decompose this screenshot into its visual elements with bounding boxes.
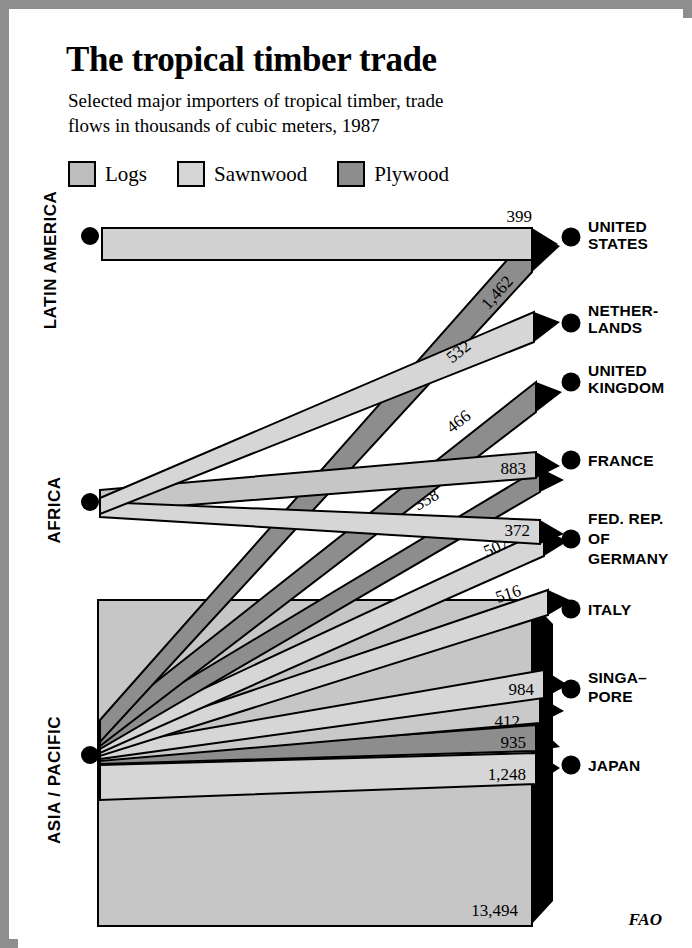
dest-label-singapore: SINGA– PORE — [588, 669, 647, 705]
source-node-asia-pacific[interactable] — [81, 746, 99, 764]
dest-node-italy[interactable] — [562, 600, 581, 619]
svg-text:ITALY: ITALY — [588, 601, 632, 618]
chart-inner-panel: The tropical timber trade Selected major… — [18, 18, 692, 948]
dest-label-netherlands: NETHER- LANDS — [588, 302, 658, 336]
svg-text:LATIN AMERICA: LATIN AMERICA — [41, 191, 60, 330]
flow-label-883: 883 — [501, 459, 527, 478]
svg-text:PORE: PORE — [588, 688, 633, 705]
dest-label-united-states: UNITED STATES — [588, 218, 648, 252]
flow-label-935: 935 — [501, 733, 527, 752]
dest-node-germany[interactable] — [562, 530, 581, 549]
flow-label-984: 984 — [509, 680, 535, 699]
dest-node-france[interactable] — [562, 451, 581, 470]
svg-text:AFRICA: AFRICA — [45, 476, 64, 543]
sankey-diagram: 13,494 1,248 935 412 984 — [20, 20, 692, 948]
svg-text:LANDS: LANDS — [588, 319, 642, 336]
dest-node-united-states[interactable] — [562, 228, 581, 247]
dest-node-united-kingdom[interactable] — [562, 373, 581, 392]
dest-label-japan: JAPAN — [588, 757, 640, 774]
svg-text:KINGDOM: KINGDOM — [588, 379, 664, 396]
flow-latin-us-sawnwood[interactable]: 399 — [102, 207, 558, 260]
svg-text:GERMANY: GERMANY — [588, 550, 669, 567]
dest-label-germany: FED. REP. OF GERMANY — [588, 510, 669, 567]
flow-label-372: 372 — [505, 521, 531, 540]
svg-text:FED. REP.: FED. REP. — [588, 510, 664, 527]
dest-node-japan[interactable] — [562, 756, 581, 775]
flow-label-466: 466 — [443, 406, 475, 437]
svg-text:SINGA–: SINGA– — [588, 669, 647, 686]
svg-text:FRANCE: FRANCE — [588, 452, 654, 469]
svg-text:JAPAN: JAPAN — [588, 757, 640, 774]
svg-text:OF: OF — [588, 530, 610, 547]
source-credit: FAO — [629, 910, 662, 930]
flow-label-1248: 1,248 — [488, 765, 526, 784]
flow-label-13494: 13,494 — [471, 901, 518, 920]
source-node-latin-america[interactable] — [81, 227, 99, 245]
dest-label-france: FRANCE — [588, 452, 654, 469]
dest-node-netherlands[interactable] — [562, 314, 581, 333]
dest-label-united-kingdom: UNITED KINGDOM — [588, 362, 664, 396]
source-label-asia-pacific: ASIA / PACIFIC — [45, 716, 64, 844]
svg-text:UNITED: UNITED — [588, 218, 647, 235]
svg-text:UNITED: UNITED — [588, 362, 647, 379]
source-label-latin-america: LATIN AMERICA — [41, 191, 60, 330]
flow-label-412: 412 — [495, 712, 521, 731]
source-node-africa[interactable] — [81, 493, 99, 511]
svg-text:STATES: STATES — [588, 235, 648, 252]
dest-label-italy: ITALY — [588, 601, 632, 618]
svg-text:NETHER-: NETHER- — [588, 302, 658, 319]
source-label-africa: AFRICA — [45, 476, 64, 543]
flow-label-399: 399 — [507, 207, 533, 226]
chart-frame: The tropical timber trade Selected major… — [0, 0, 692, 948]
svg-text:ASIA / PACIFIC: ASIA / PACIFIC — [45, 716, 64, 844]
dest-node-singapore[interactable] — [562, 680, 581, 699]
